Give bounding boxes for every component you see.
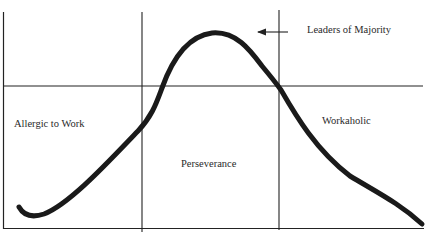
workaholic-label: Workaholic — [322, 116, 371, 127]
arrow-left-icon — [257, 29, 266, 36]
leaders-of-majority-label: Leaders of Majority — [307, 25, 391, 36]
allergic-to-work-label: Allergic to Work — [14, 119, 85, 130]
perseverance-label: Perseverance — [181, 159, 236, 170]
